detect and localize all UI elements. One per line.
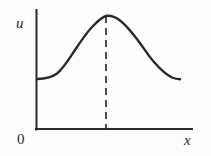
x-axis-label: x	[184, 133, 191, 148]
y-axis-label: u	[16, 16, 24, 31]
figure-container: u x 0	[0, 0, 211, 156]
u-curve-path	[37, 16, 180, 79]
plot-svg	[0, 0, 211, 156]
origin-label: 0	[17, 132, 25, 147]
